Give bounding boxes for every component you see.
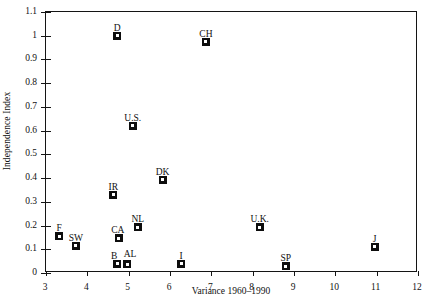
y-tick-mark-inner [46,59,51,60]
data-point[interactable] [109,191,117,199]
data-point-label: IR [109,182,119,192]
data-point[interactable] [113,32,121,40]
y-tick-label: 0.5 [25,148,37,158]
x-tick-mark [294,271,295,276]
data-point[interactable] [115,234,123,242]
x-tick-mark [418,271,419,276]
data-point[interactable] [371,243,379,251]
data-point-label: NL [131,214,144,224]
data-point-label: SP [280,253,291,263]
data-point[interactable] [282,262,290,270]
y-tick-label: 1.1 [25,6,37,16]
x-axis-title: Variance 1960–1990 [45,286,417,296]
data-point[interactable] [123,260,131,268]
x-axis-title-label: Variance 1960–1990 [192,286,270,296]
y-tick-mark-inner [46,83,51,84]
y-tick-mark-inner [46,249,51,250]
y-tick-label: 0.7 [25,101,37,111]
y-tick-mark-inner [46,107,51,108]
data-point-label: F [57,223,62,233]
data-point-label: CH [199,29,212,39]
y-tick-mark-inner [46,202,51,203]
y-tick-label: 0.8 [25,77,37,87]
y-axis-title-label: Independence Index [2,91,12,170]
y-tick-mark-inner [46,226,51,227]
y-tick-label: 0.9 [25,53,37,63]
data-point[interactable] [113,260,121,268]
data-point-label: D [114,23,121,33]
data-point-label: SW [69,233,83,243]
x-tick-mark [211,271,212,276]
data-point[interactable] [55,232,63,240]
data-point-label: DK [156,167,170,177]
data-point-label: CA [111,225,124,235]
y-axis-title: Independence Index [0,0,14,261]
data-point-label: B [111,251,117,261]
data-point-label: I [180,251,183,261]
data-point[interactable] [177,260,185,268]
x-tick-mark [46,271,47,276]
y-tick-mark-inner [46,154,51,155]
y-tick-label: 0.1 [25,243,37,253]
data-point[interactable] [72,242,80,250]
x-tick-mark [129,271,130,276]
plot-area: DCHU.S.DKIRNLU.K.CAFSWJBALISP [45,11,417,272]
y-tick-label: 0.4 [25,172,37,182]
data-point-label: AL [124,249,137,259]
x-tick-mark [170,271,171,276]
x-tick-mark [253,271,254,276]
y-tick-label: 0.2 [25,220,37,230]
y-tick-label: 0.3 [25,196,37,206]
data-point[interactable] [134,223,142,231]
y-tick-mark-inner [46,12,51,13]
scatter-chart: Independence Index DCHU.S.DKIRNLU.K.CAFS… [0,0,429,303]
y-tick-mark-inner [46,36,51,37]
data-point-label: U.S. [124,113,141,123]
y-tick-mark-inner [46,131,51,132]
x-tick-mark [335,271,336,276]
x-tick-mark [87,271,88,276]
data-point[interactable] [129,122,137,130]
data-point-label: U.K. [250,214,268,224]
data-point[interactable] [256,223,264,231]
y-tick-mark-inner [46,178,51,179]
x-tick-mark [377,271,378,276]
data-point-label: J [373,234,377,244]
y-tick-label: 0.6 [25,125,37,135]
y-tick-label: 0 [32,267,37,277]
data-point[interactable] [202,38,210,46]
y-tick-label: 1 [32,30,37,40]
data-point[interactable] [159,176,167,184]
